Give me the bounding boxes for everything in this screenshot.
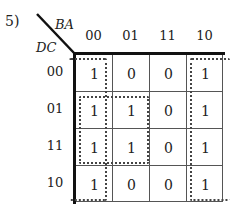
loop-column-10 <box>190 58 230 201</box>
loop-quad <box>79 96 149 164</box>
row-header: 10 <box>40 175 70 190</box>
cell: 0 <box>150 129 187 166</box>
cell: 0 <box>150 166 187 203</box>
column-vars-label: BA <box>55 17 74 32</box>
row-vars-label: DC <box>36 40 56 55</box>
row-header: 00 <box>40 64 70 79</box>
cell: 0 <box>113 55 150 92</box>
col-header: 01 <box>112 28 149 43</box>
cell: 0 <box>150 55 187 92</box>
row-header: 01 <box>40 101 70 116</box>
cell: 0 <box>113 166 150 203</box>
col-header: 11 <box>149 28 186 43</box>
cell: 0 <box>150 92 187 129</box>
top-border <box>75 52 225 55</box>
col-header: 00 <box>75 28 112 43</box>
row-header: 11 <box>40 138 70 153</box>
col-header: 10 <box>186 28 223 43</box>
